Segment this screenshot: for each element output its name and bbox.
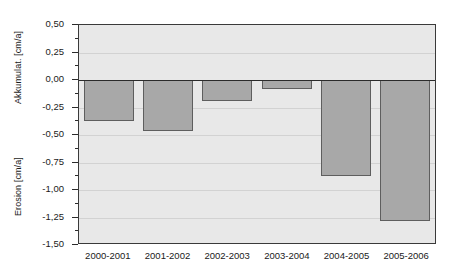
bar-slot	[376, 25, 435, 243]
bar[interactable]	[84, 80, 134, 121]
bar-slot	[198, 25, 257, 243]
bar[interactable]	[202, 80, 252, 101]
y-tick-label: -1,25	[42, 212, 64, 222]
x-tick-label: 2003-2004	[257, 250, 317, 261]
x-axis-tick-labels: 2000-20012001-20022002-20032003-20042004…	[78, 250, 436, 261]
x-tick-label: 2005-2006	[376, 250, 436, 261]
x-tick-label: 2004-2005	[317, 250, 377, 261]
x-tick-label: 2002-2003	[197, 250, 257, 261]
y-tick-label: -0,50	[42, 129, 64, 139]
y-axis-tick-marks	[68, 24, 78, 244]
y-tick-label: 0,00	[46, 74, 65, 84]
bar[interactable]	[321, 80, 371, 176]
bar-slot	[257, 25, 316, 243]
bar[interactable]	[262, 80, 312, 89]
y-axis-tick-labels: 0,500,250,00-0,25-0,50-0,75-1,00-1,25-1,…	[22, 24, 64, 244]
y-tick-label: -1,50	[42, 239, 64, 249]
y-tick-label: -0,25	[42, 102, 64, 112]
zero-line	[79, 80, 435, 81]
plot-area	[78, 24, 436, 244]
bar-slot	[316, 25, 375, 243]
x-tick-label: 2001-2002	[138, 250, 198, 261]
bar[interactable]	[143, 80, 193, 131]
bars-layer	[79, 25, 435, 243]
bar-chart: Akkumulat. [cm/a] Erosion [cm/a] 0,500,2…	[0, 0, 449, 279]
bar-slot	[138, 25, 197, 243]
y-tick-label: -0,75	[42, 157, 64, 167]
bar-slot	[79, 25, 138, 243]
y-tick-label: 0,50	[46, 19, 65, 29]
y-tick-label: 0,25	[46, 47, 65, 57]
y-tick-label: -1,00	[42, 184, 64, 194]
x-tick-label: 2000-2001	[78, 250, 138, 261]
y-tick-major	[72, 244, 78, 245]
bar[interactable]	[380, 80, 430, 221]
